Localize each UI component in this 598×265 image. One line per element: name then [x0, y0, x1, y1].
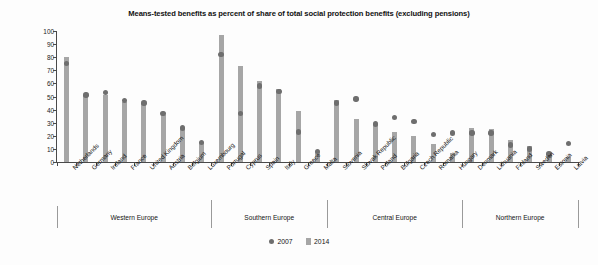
x-category-label: Romania — [437, 166, 442, 171]
chart-column — [269, 31, 288, 162]
dot-2007 — [488, 130, 493, 135]
dot-2007 — [160, 111, 165, 116]
chart-column — [250, 31, 269, 162]
x-category-label: Sweden — [534, 166, 539, 171]
chart-column — [308, 31, 327, 162]
x-category-label: Luxembourg — [206, 166, 211, 171]
x-category-label: Poland — [379, 166, 384, 171]
group-band: Western EuropeSouthern EuropeCentral Eur… — [30, 206, 586, 228]
chart-column — [520, 31, 539, 162]
y-axis-tick-labels: 0102030405060708090100 — [31, 31, 54, 163]
chart-column — [96, 31, 115, 162]
y-tick-label: 0 — [34, 159, 54, 166]
x-category-label: Malta — [322, 166, 327, 171]
group-label: Northern Europe — [462, 214, 578, 221]
group-label: Central Europe — [327, 214, 462, 221]
y-tick-label: 90 — [34, 41, 54, 48]
y-tick-label: 70 — [34, 67, 54, 74]
x-category-label: Greece — [302, 166, 307, 171]
x-category-label: Germany — [90, 166, 95, 171]
x-category-label: Netherlands — [71, 166, 76, 171]
group-label: Western Europe — [57, 214, 211, 221]
dot-2007 — [83, 92, 88, 97]
bar-2014 — [257, 81, 262, 162]
legend-item: 2007 — [269, 238, 293, 245]
chart-column — [134, 31, 153, 162]
chart-column — [501, 31, 520, 162]
chart-column — [231, 31, 250, 162]
x-category-label: Slovenia — [341, 166, 346, 171]
chart-page: Means-tested benefits as percent of shar… — [0, 0, 598, 265]
y-tick-label: 80 — [34, 54, 54, 61]
x-category-label: Belgium — [186, 166, 191, 171]
x-category-label: Finland — [514, 166, 519, 171]
x-category-label: Cyprus — [244, 166, 249, 171]
x-category-label: Latvia — [572, 166, 577, 171]
bar-2014 — [276, 89, 281, 162]
y-tick-label: 100 — [34, 28, 54, 35]
dot-2007 — [411, 119, 416, 124]
chart-column — [462, 31, 481, 162]
x-category-label: Lithuania — [495, 166, 500, 171]
y-tick-label: 20 — [34, 132, 54, 139]
legend-item: 2014 — [306, 238, 330, 245]
group-separator-riser — [327, 200, 328, 206]
dot-2007 — [257, 83, 262, 88]
x-category-label: Denmark — [476, 166, 481, 171]
y-tick-label: 50 — [34, 93, 54, 100]
group-separator-riser — [578, 200, 579, 206]
dot-2007 — [566, 141, 571, 146]
dot-2007 — [353, 96, 358, 101]
chart-column — [57, 31, 76, 162]
chart-column — [289, 31, 308, 162]
plot-area — [57, 31, 578, 162]
dot-2007 — [141, 100, 146, 105]
dot-2007 — [276, 89, 281, 94]
x-category-label: Italy — [283, 166, 288, 171]
chart-column — [482, 31, 501, 162]
y-tick-label: 30 — [34, 119, 54, 126]
chart-column — [559, 31, 578, 162]
dot-2007 — [296, 129, 301, 134]
legend-dot-icon — [269, 239, 274, 244]
group-separator — [578, 206, 579, 228]
dot-2007 — [218, 52, 223, 57]
group-label: Southern Europe — [211, 214, 327, 221]
group-separator-riser — [211, 200, 212, 206]
dot-2007 — [373, 121, 378, 126]
x-category-label: Portugal — [225, 166, 230, 171]
dot-2007 — [450, 130, 455, 135]
chart-column — [346, 31, 365, 162]
x-category-label: France — [129, 166, 134, 171]
bar-2014 — [296, 111, 301, 162]
chart-legend: 20072014 — [0, 238, 598, 245]
legend-label: 2014 — [314, 238, 329, 245]
chart-column — [76, 31, 95, 162]
y-tick-label: 40 — [34, 106, 54, 113]
group-separator-riser — [462, 200, 463, 206]
x-category-label: Bulgaria — [399, 166, 404, 171]
x-category-label: Hungary — [457, 166, 462, 171]
bar-2014 — [64, 57, 69, 162]
x-category-label: Ireland — [109, 166, 114, 171]
y-tick-label: 10 — [34, 145, 54, 152]
legend-label: 2007 — [277, 238, 292, 245]
chart-column — [115, 31, 134, 162]
chart-column — [404, 31, 423, 162]
chart-title: Means-tested benefits as percent of shar… — [0, 9, 598, 18]
dot-2007 — [431, 132, 436, 137]
x-category-label: Estonia — [553, 166, 558, 171]
x-axis-category-labels: NetherlandsGermanyIrelandFranceUnited Ki… — [57, 166, 578, 208]
x-category-label: Slovak Republic — [360, 166, 365, 171]
x-category-label: Austria — [167, 166, 172, 171]
chart-column — [539, 31, 558, 162]
bar-2014 — [334, 100, 339, 162]
x-category-label: United Kingdom — [148, 166, 153, 171]
legend-bar-icon — [306, 238, 311, 245]
x-category-label: Spain — [264, 166, 269, 171]
dot-2007 — [392, 115, 397, 120]
x-category-label: Czech Republic — [418, 166, 423, 171]
chart-column — [327, 31, 346, 162]
dot-2007 — [469, 130, 474, 135]
dot-2007 — [180, 125, 185, 130]
